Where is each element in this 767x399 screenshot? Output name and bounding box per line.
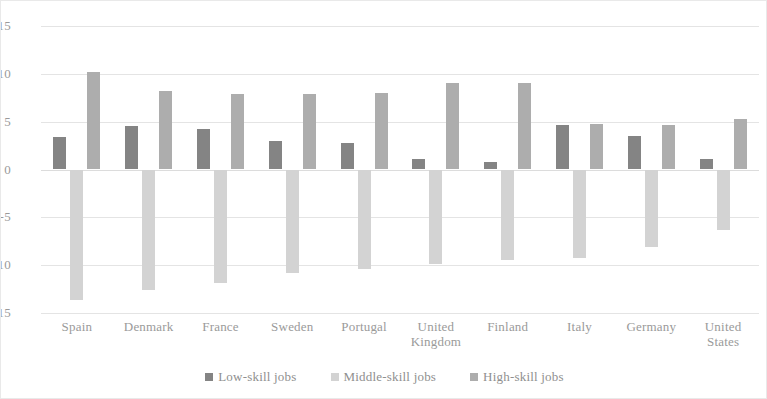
- legend-item[interactable]: High-skill jobs: [470, 369, 564, 385]
- gridline--15: [41, 313, 759, 314]
- bar: [159, 91, 172, 169]
- y-axis-tick-label: 5: [0, 114, 11, 130]
- bar: [573, 170, 586, 259]
- bar: [70, 170, 83, 300]
- y-axis-tick-label: 10: [0, 66, 11, 82]
- x-axis-category-label: UnitedKingdom: [400, 319, 472, 349]
- y-axis-tick-label: 0: [0, 162, 11, 178]
- bar: [429, 170, 442, 265]
- bar: [412, 159, 425, 170]
- bar: [556, 125, 569, 170]
- bar-group: [412, 26, 459, 313]
- legend-swatch-icon: [470, 373, 478, 381]
- x-axis-category-line: Sweden: [256, 319, 328, 334]
- chart-legend: Low-skill jobsMiddle-skill jobsHigh-skil…: [1, 369, 767, 385]
- bar: [375, 93, 388, 170]
- bar-group: [53, 26, 100, 313]
- x-axis-category-label: Denmark: [113, 319, 185, 334]
- y-axis-tick-label: -15: [0, 305, 11, 321]
- bar: [231, 94, 244, 170]
- bar-group: [484, 26, 531, 313]
- legend-swatch-icon: [331, 373, 339, 381]
- x-axis-category-label: France: [185, 319, 257, 334]
- bar: [358, 170, 371, 269]
- bar: [214, 170, 227, 284]
- x-axis-category-label: Germany: [615, 319, 687, 334]
- bar: [700, 159, 713, 170]
- plot-area: 151050-5-10-15: [41, 26, 759, 313]
- x-axis-category-line: Portugal: [328, 319, 400, 334]
- bar: [87, 72, 100, 170]
- x-axis-category-label: Italy: [544, 319, 616, 334]
- y-axis-tick-label: 15: [0, 18, 11, 34]
- bar-group: [628, 26, 675, 313]
- x-axis-category-line: Spain: [41, 319, 113, 334]
- bar: [197, 129, 210, 169]
- y-axis-tick-label: -5: [0, 209, 11, 225]
- bar: [484, 162, 497, 170]
- bar-group: [197, 26, 244, 313]
- x-axis-category-line: Italy: [544, 319, 616, 334]
- bar-group: [556, 26, 603, 313]
- x-axis-category-line: Finland: [472, 319, 544, 334]
- bar-group: [269, 26, 316, 313]
- x-axis-category-line: Denmark: [113, 319, 185, 334]
- x-axis-category-label: Finland: [472, 319, 544, 334]
- bar: [446, 83, 459, 169]
- chart-container: 151050-5-10-15 Low-skill jobsMiddle-skil…: [0, 0, 767, 399]
- bar-group: [341, 26, 388, 313]
- bar: [628, 136, 641, 169]
- bar: [142, 170, 155, 291]
- x-axis-category-line: Kingdom: [400, 334, 472, 349]
- bar: [53, 137, 66, 170]
- x-axis-category-line: France: [185, 319, 257, 334]
- x-axis-category-label: Spain: [41, 319, 113, 334]
- legend-swatch-icon: [205, 373, 213, 381]
- bar: [269, 141, 282, 170]
- bar: [501, 170, 514, 261]
- legend-label: Middle-skill jobs: [344, 369, 437, 385]
- x-axis-category-line: United: [400, 319, 472, 334]
- bar: [286, 170, 299, 273]
- legend-label: High-skill jobs: [483, 369, 564, 385]
- x-axis-category-line: United: [687, 319, 759, 334]
- bar: [645, 170, 658, 247]
- legend-item[interactable]: Low-skill jobs: [205, 369, 296, 385]
- legend-item[interactable]: Middle-skill jobs: [331, 369, 437, 385]
- x-axis-category-label: Sweden: [256, 319, 328, 334]
- bar-group: [125, 26, 172, 313]
- bar: [734, 119, 747, 170]
- bar: [341, 143, 354, 170]
- x-axis-category-line: Germany: [615, 319, 687, 334]
- bar: [590, 124, 603, 170]
- bar: [125, 126, 138, 169]
- x-axis-category-line: States: [687, 334, 759, 349]
- bar: [717, 170, 730, 230]
- legend-label: Low-skill jobs: [218, 369, 296, 385]
- bar: [303, 94, 316, 170]
- bar-group: [700, 26, 747, 313]
- x-axis-category-label: UnitedStates: [687, 319, 759, 349]
- bar: [662, 125, 675, 170]
- bar: [518, 83, 531, 169]
- x-axis-category-label: Portugal: [328, 319, 400, 334]
- y-axis-tick-label: -10: [0, 257, 11, 273]
